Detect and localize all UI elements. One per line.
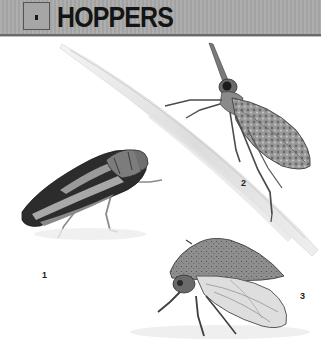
figure-label-2: 2 xyxy=(241,178,246,188)
illustration xyxy=(0,0,330,354)
figure-label-3: 3 xyxy=(300,291,305,301)
figure-label-1: 1 xyxy=(42,270,47,280)
insect-1-leafhopper xyxy=(22,150,162,240)
insect-3-treehopper xyxy=(130,238,310,339)
